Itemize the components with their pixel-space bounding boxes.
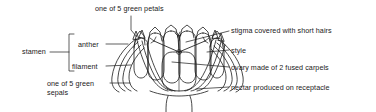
label-sepals: one of 5 green sepals: [47, 80, 111, 97]
label-stigma: stigma covered with short hairs: [231, 27, 332, 36]
label-filament: filament: [72, 63, 98, 72]
label-ovary: ovary made of 2 fused carpels: [231, 64, 329, 73]
leader-nectar: [196, 87, 229, 89]
label-style: style: [231, 47, 246, 56]
leader-filament: [106, 65, 131, 66]
flower-diagram: one of 5 green petals stigma covered wit…: [0, 0, 376, 112]
label-stamen: stamen: [22, 48, 46, 57]
receptacle: [150, 91, 208, 112]
label-nectar: nectar produced on receptacle: [231, 84, 330, 93]
label-petals: one of 5 green petals: [95, 5, 164, 14]
leader-petals: [131, 16, 137, 37]
ovary: [162, 52, 196, 91]
label-anther: anther: [78, 41, 99, 50]
leader-ovary: [172, 62, 229, 67]
